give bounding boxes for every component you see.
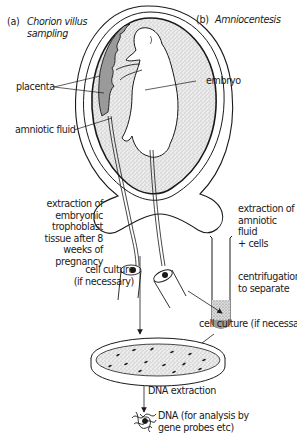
dna-result-label: DNA (for analysis by gene probes etc) [158, 410, 249, 433]
panel-a-title: Chorion villus sampling [27, 16, 87, 39]
test-tube-illustration [210, 236, 232, 328]
amniocentesis-extraction-label: extraction of amniotic fluid + cells [238, 203, 297, 249]
cvs-extraction-label: extraction of embryonic trophoblast tiss… [23, 198, 103, 267]
embryo-label: embryo [206, 75, 241, 87]
amniotic-fluid-label: amniotic fluid [15, 124, 76, 136]
cell-culture-left-label: cell culture (if necessary) [54, 264, 134, 287]
placenta-label: placenta [16, 81, 55, 93]
dna-extraction-label: DNA extraction [148, 385, 216, 397]
panel-a-letter: (a) [7, 16, 19, 28]
dna-icon [132, 412, 156, 432]
panel-b-title: Amniocentesis [215, 14, 281, 26]
cell-culture-right-label: cell culture (if necessary) [199, 318, 297, 330]
centrifugation-label: centrifugation to separate [238, 271, 297, 294]
panel-b-letter: (b) [196, 14, 209, 26]
petri-dish-illustration [91, 338, 225, 386]
